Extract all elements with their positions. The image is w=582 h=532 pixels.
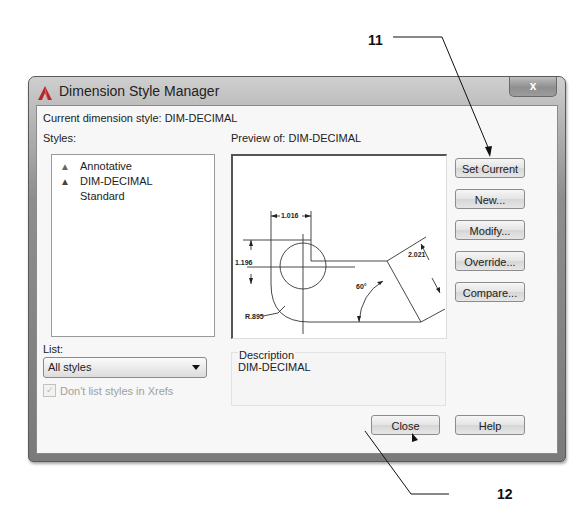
help-button[interactable]: Help: [455, 415, 525, 435]
style-name: Standard: [80, 190, 125, 202]
style-name: Annotative: [80, 160, 132, 172]
dialog-body: Current dimension style: DIM-DECIMAL Sty…: [36, 105, 558, 454]
chevron-down-icon: [192, 365, 200, 370]
style-preview: 1.016 1.196 2.021 60° R.895: [231, 154, 447, 339]
dim-radius-text: R.895: [245, 313, 264, 320]
annotative-icon: ▲: [58, 161, 72, 172]
dimension-preview-drawing: 1.016 1.196 2.021 60° R.895: [233, 156, 446, 338]
list-item[interactable]: ▲ Standard: [58, 189, 125, 203]
list-item[interactable]: ▲ Annotative: [58, 159, 132, 173]
window-title: Dimension Style Manager: [59, 83, 219, 99]
modify-button[interactable]: Modify...: [455, 220, 525, 240]
styles-label: Styles:: [43, 132, 76, 144]
override-button[interactable]: Override...: [455, 251, 525, 271]
description-value: DIM-DECIMAL: [238, 361, 311, 373]
list-item[interactable]: ▲ DIM-DECIMAL: [58, 174, 153, 188]
dim-horizontal-text: 1.016: [281, 212, 299, 219]
autocad-a-icon: [37, 85, 53, 101]
annotative-icon: ▲: [58, 176, 72, 187]
description-group: Description DIM-DECIMAL: [231, 352, 446, 406]
callout-11: 11: [368, 32, 383, 48]
current-style-label: Current dimension style: DIM-DECIMAL: [43, 112, 237, 124]
list-filter-value: All styles: [48, 361, 91, 373]
set-current-button[interactable]: Set Current: [455, 158, 525, 178]
compare-button[interactable]: Compare...: [455, 282, 525, 302]
dim-angle-text: 60°: [356, 283, 367, 290]
title-bar[interactable]: Dimension Style Manager x: [29, 77, 565, 107]
callout-12: 12: [497, 486, 513, 502]
list-filter-dropdown[interactable]: All styles: [43, 357, 207, 378]
close-icon: x: [530, 79, 537, 93]
dimension-style-manager-dialog: Dimension Style Manager x Current dimens…: [28, 76, 566, 462]
xref-checkbox-row: ✓ Don't list styles in Xrefs: [43, 384, 173, 397]
close-window-button[interactable]: x: [509, 77, 557, 97]
xref-checkbox-label: Don't list styles in Xrefs: [60, 385, 173, 397]
dim-vertical-text: 1.196: [235, 259, 253, 266]
close-button[interactable]: Close: [371, 415, 440, 435]
styles-listbox[interactable]: ▲ Annotative ▲ DIM-DECIMAL ▲ Standard: [51, 154, 215, 337]
description-label: Description: [238, 349, 295, 361]
preview-label: Preview of: DIM-DECIMAL: [231, 132, 361, 144]
dim-aligned-text: 2.021: [408, 251, 426, 258]
new-button[interactable]: New...: [455, 189, 525, 209]
xref-checkbox[interactable]: ✓: [43, 384, 56, 397]
list-label: List:: [43, 343, 63, 355]
style-name: DIM-DECIMAL: [80, 175, 153, 187]
